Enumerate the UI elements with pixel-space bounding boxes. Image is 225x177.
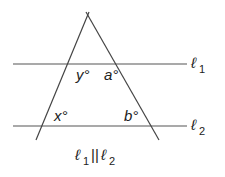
parallel-lines-diagram: y° a° x° b° ℓ 1 ℓ 2 ℓ 1 || ℓ 2 bbox=[0, 0, 225, 177]
angle-a-label: a° bbox=[104, 66, 118, 83]
angle-y-label: y° bbox=[75, 66, 90, 83]
caption-parallel: || bbox=[91, 146, 99, 163]
line-l1-subscript: 1 bbox=[199, 63, 205, 75]
line-l2-subscript: 2 bbox=[199, 125, 205, 137]
angle-x-label: x° bbox=[53, 107, 68, 124]
line-l2-label: ℓ bbox=[190, 116, 197, 133]
caption-s1: 1 bbox=[83, 155, 89, 167]
caption-s2: 2 bbox=[109, 155, 115, 167]
line-l1-label: ℓ bbox=[190, 54, 197, 71]
caption-l2: ℓ bbox=[100, 146, 107, 163]
transversal-right bbox=[86, 12, 159, 140]
caption-l1: ℓ bbox=[74, 146, 81, 163]
angle-b-label: b° bbox=[124, 107, 138, 124]
